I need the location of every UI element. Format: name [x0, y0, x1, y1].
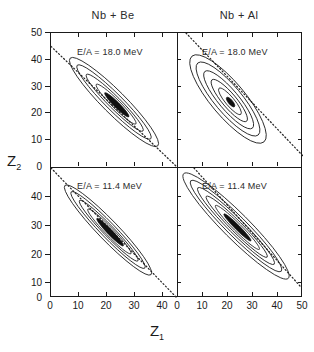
y-axis-title-subscript: 2 [16, 162, 21, 172]
ytick-top-30 [45, 86, 50, 87]
ylabel-bottom-40: 40 [20, 191, 42, 202]
ylabel-top-10: 10 [20, 134, 42, 145]
xtick-mid-left-20 [106, 162, 107, 166]
ylabel-bottom-30: 30 [20, 220, 42, 231]
ytick-bottom-20 [45, 254, 50, 255]
xlabel-right-10: 10 [191, 300, 213, 311]
xlabel-right-40: 40 [266, 300, 288, 311]
ytick-right-bottom-20 [298, 254, 302, 255]
ylabel-bottom-10: 10 [20, 277, 42, 288]
xtick-top-right-10 [202, 33, 203, 37]
xlabel-left-10: 10 [67, 300, 89, 311]
xtick-top-left-10 [78, 33, 79, 37]
xtick-mid-right-30 [252, 162, 253, 166]
ytick-bottom-40 [45, 196, 50, 197]
xlabel-left-0: 0 [39, 300, 61, 311]
ylabel-top-30: 30 [20, 81, 42, 92]
ytick-right-bottom-30 [298, 225, 302, 226]
xtick-bottom-right-40 [277, 292, 278, 297]
x-axis-title-subscript: 1 [159, 332, 164, 342]
x-axis-title: Z1 [0, 322, 314, 342]
annotation-energy-top-left: E/A = 18.0 MeV [77, 47, 143, 57]
ylabel-bottom-20: 20 [20, 249, 42, 260]
x-axis-title-letter: Z [150, 322, 159, 339]
ytick-right-top-10 [298, 139, 302, 140]
ytick-top-50 [45, 32, 50, 33]
xtick-bottom-right-20 [227, 292, 228, 297]
xlabel-left-20: 20 [95, 300, 117, 311]
column-title-nb-al: Nb + Al [176, 9, 302, 21]
xtick-top-left-20 [106, 33, 107, 37]
ytick-bottom-10 [45, 282, 50, 283]
xtick-bottom-left-10 [78, 292, 79, 297]
ytick-top-20 [45, 112, 50, 113]
ytick-inner-top-10 [177, 139, 181, 140]
ylabel-top-20: 20 [20, 107, 42, 118]
ytick-inner-top-20 [177, 112, 181, 113]
xtick-mid-left-30 [134, 162, 135, 166]
annotation-energy-top-right: E/A = 18.0 MeV [202, 47, 268, 57]
xtick-bottom-right-10 [202, 292, 203, 297]
ytick-top-40 [45, 59, 50, 60]
ytick-right-top-30 [298, 86, 302, 87]
xlabel-right-0: 0 [166, 300, 188, 311]
xtick-mid-right-40 [277, 162, 278, 166]
ytick-bottom-30 [45, 225, 50, 226]
ytick-inner-top-30 [177, 86, 181, 87]
ylabel-top-0: 0 [20, 161, 42, 172]
ytick-inner-bottom-10 [177, 282, 181, 283]
ylabel-top-50: 50 [20, 27, 42, 38]
xtick-top-right-20 [227, 33, 228, 37]
y-axis-title: Z2 [7, 152, 21, 172]
xtick-top-left-30 [134, 33, 135, 37]
plot-frame: E/A = 18.0 MeV E/A = 18.0 MeV E/A = 11.4… [50, 32, 302, 297]
ytick-right-top-40 [298, 59, 302, 60]
ytick-inner-bottom-20 [177, 254, 181, 255]
xtick-bottom-left-20 [106, 292, 107, 297]
xlabel-left-30: 30 [123, 300, 145, 311]
contour-figure: Nb + Be Nb + Al [0, 0, 314, 352]
ytick-top-10 [45, 139, 50, 140]
xtick-top-right-40 [277, 33, 278, 37]
xtick-bottom-left-40 [162, 292, 163, 297]
ytick-right-top-20 [298, 112, 302, 113]
y-axis-title-letter: Z [7, 152, 16, 169]
column-title-nb-be: Nb + Be [50, 9, 176, 21]
ytick-right-bottom-40 [298, 196, 302, 197]
xtick-mid-right-20 [227, 162, 228, 166]
xlabel-right-50: 50 [291, 300, 313, 311]
xtick-mid-left-40 [162, 162, 163, 166]
xlabel-right-30: 30 [241, 300, 263, 311]
ytick-inner-bottom-40 [177, 196, 181, 197]
xtick-bottom-left-30 [134, 292, 135, 297]
ytick-inner-top-40 [177, 59, 181, 60]
ytick-right-bottom-10 [298, 282, 302, 283]
xtick-mid-left-10 [78, 162, 79, 166]
annotation-energy-bottom-right: E/A = 11.4 MeV [202, 181, 267, 191]
xtick-top-left-40 [162, 33, 163, 37]
ytick-inner-bottom-30 [177, 225, 181, 226]
xtick-mid-right-10 [202, 162, 203, 166]
xtick-top-right-30 [252, 33, 253, 37]
ylabel-top-40: 40 [20, 54, 42, 65]
annotation-energy-bottom-left: E/A = 11.4 MeV [77, 181, 142, 191]
xlabel-right-20: 20 [216, 300, 238, 311]
xtick-bottom-right-30 [252, 292, 253, 297]
